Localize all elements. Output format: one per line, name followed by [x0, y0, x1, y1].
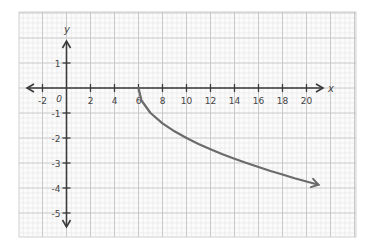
- x-tick-label: 8: [160, 96, 166, 106]
- x-tick-label: 18: [277, 96, 289, 106]
- x-tick-label: 10: [181, 96, 193, 106]
- x-tick-label: -2: [38, 96, 47, 106]
- y-tick-label: -3: [52, 159, 61, 169]
- y-tick-label: -4: [52, 184, 61, 194]
- y-tick-label: -2: [52, 134, 61, 144]
- x-tick-label: 2: [88, 96, 94, 106]
- x-tick-label: 12: [205, 96, 216, 106]
- y-tick-label: 1: [55, 59, 61, 69]
- x-tick-label: 16: [253, 96, 265, 106]
- origin-label: 0: [56, 94, 62, 104]
- x-tick-label: 4: [112, 96, 118, 106]
- graph-figure: -224681012141618201-1-2-3-4-50xy: [0, 0, 367, 249]
- y-axis-label: y: [63, 24, 71, 35]
- y-tick-label: -5: [52, 209, 61, 219]
- y-tick-label: -1: [52, 109, 61, 119]
- x-tick-label: 20: [301, 96, 313, 106]
- x-tick-label: 14: [229, 96, 241, 106]
- x-axis-label: x: [327, 83, 334, 94]
